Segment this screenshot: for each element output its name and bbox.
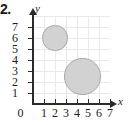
origin-label: 0 xyxy=(15,107,26,119)
x-axis-tick xyxy=(110,99,111,104)
x-axis-tick-label: 7 xyxy=(105,107,116,119)
y-axis-tick xyxy=(28,82,33,83)
y-axis-tick xyxy=(28,49,33,50)
x-axis-tick xyxy=(99,99,100,104)
small-circle-shape xyxy=(42,25,67,50)
x-axis-tick-label: 4 xyxy=(72,107,83,119)
y-axis-tick xyxy=(28,27,33,28)
x-axis-tick-label: 5 xyxy=(83,107,94,119)
figure-screenshot: 2. 12345671234567 0 y x xyxy=(0,0,128,125)
x-axis-tick-label: 2 xyxy=(50,107,61,119)
y-axis-tick-label: 7 xyxy=(7,21,18,33)
large-circle-shape xyxy=(64,58,100,94)
x-axis-tick-label: 3 xyxy=(61,107,72,119)
x-axis-tick xyxy=(55,99,56,104)
x-axis-tick xyxy=(88,99,89,104)
y-axis-label: y xyxy=(35,3,40,14)
y-axis-tick xyxy=(28,71,33,72)
y-axis-tick xyxy=(28,60,33,61)
y-axis-tick xyxy=(28,38,33,39)
x-axis-label: x xyxy=(118,96,123,107)
problem-number: 2. xyxy=(0,1,11,17)
x-axis-tick xyxy=(77,99,78,104)
x-axis-tick xyxy=(44,99,45,104)
x-axis-tick-label: 6 xyxy=(94,107,105,119)
x-axis-tick xyxy=(66,99,67,104)
y-axis-tick xyxy=(28,93,33,94)
x-axis-tick-label: 1 xyxy=(39,107,50,119)
